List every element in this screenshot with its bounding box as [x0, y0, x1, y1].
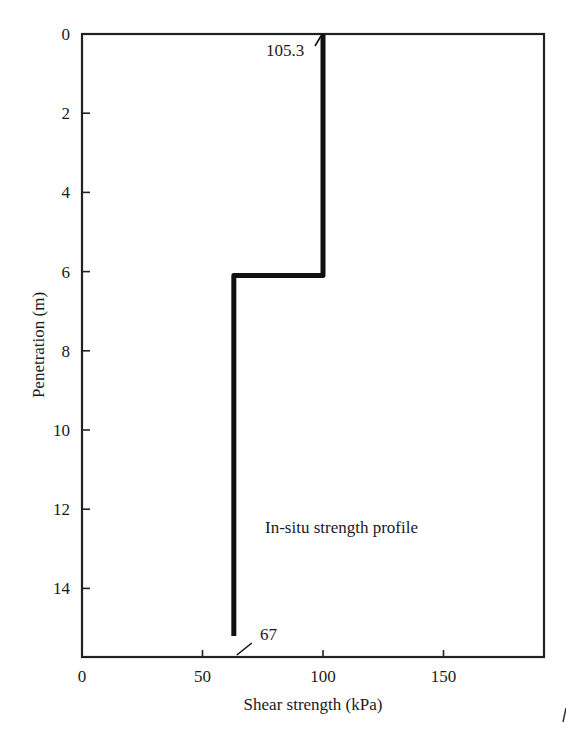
y-tick-label: 0 — [62, 25, 71, 44]
y-tick-label: 12 — [53, 500, 70, 519]
annotation-leader-bottom — [237, 643, 252, 655]
x-axis: 050100150 — [78, 650, 457, 686]
x-tick-label: 100 — [310, 667, 336, 686]
y-tick-label: 10 — [53, 421, 70, 440]
series-label: In-situ strength profile — [265, 518, 418, 537]
y-axis-title: Penetration (m) — [29, 292, 48, 398]
y-tick-label: 6 — [62, 263, 71, 282]
y-tick-label: 14 — [53, 579, 71, 598]
annotation-bottom-value: 67 — [260, 625, 278, 644]
annotation-top-value: 105.3 — [266, 41, 304, 60]
y-tick-label: 4 — [62, 183, 71, 202]
annotation-leader-top — [315, 36, 321, 46]
shear-strength-chart: 02468101214 050100150 105.3 67 In-situ s… — [0, 0, 566, 731]
x-tick-label: 0 — [78, 667, 87, 686]
x-tick-label: 50 — [194, 667, 211, 686]
y-tick-label: 2 — [62, 104, 71, 123]
strength-profile-line — [234, 34, 323, 636]
x-tick-label: 150 — [431, 667, 457, 686]
y-tick-label: 8 — [62, 342, 71, 361]
y-axis: 02468101214 — [53, 25, 90, 598]
x-axis-title: Shear strength (kPa) — [244, 695, 383, 714]
plot-frame — [82, 34, 544, 657]
